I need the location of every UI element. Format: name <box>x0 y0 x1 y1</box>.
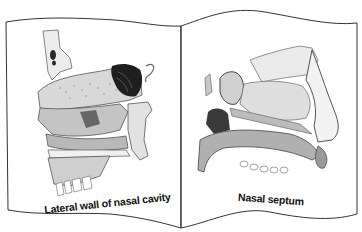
open-book: Lateral wall of nasal cavity Nasal septu… <box>0 0 362 232</box>
book-pages <box>0 0 362 232</box>
